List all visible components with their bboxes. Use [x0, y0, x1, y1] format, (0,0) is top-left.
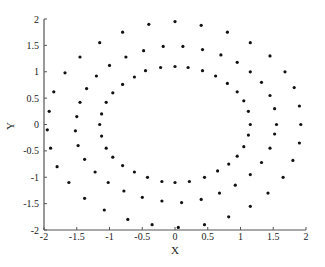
y-tick-label: 2 [34, 14, 39, 25]
data-point [188, 180, 191, 183]
data-point [203, 223, 206, 226]
data-point [293, 86, 296, 89]
x-tick-label: -0.5 [134, 231, 150, 242]
x-tick-label: 1.5 [267, 231, 280, 242]
data-point [121, 164, 124, 167]
y-tick-label: -1 [31, 172, 39, 183]
data-point [52, 90, 55, 93]
y-tick-label: -1.5 [23, 198, 39, 209]
data-point [236, 61, 239, 64]
data-point [124, 55, 127, 58]
data-point [242, 145, 245, 148]
data-point [226, 82, 229, 85]
y-tick-label: 0 [34, 119, 39, 130]
data-point [98, 41, 101, 44]
data-point [78, 101, 81, 104]
data-point [94, 170, 97, 173]
data-point [216, 169, 219, 172]
data-point [151, 223, 154, 226]
data-point [247, 134, 250, 137]
data-point [63, 71, 66, 74]
data-point [201, 48, 204, 51]
data-point [126, 218, 129, 221]
axes: -2-1.5-1-0.500.511.52-2-1.5-1-0.500.511.… [23, 14, 308, 243]
data-point [108, 64, 111, 67]
data-point [273, 132, 276, 135]
x-tick-label: -1 [105, 231, 113, 242]
data-point [142, 49, 145, 52]
data-point [75, 115, 78, 118]
x-tick-label: -2 [40, 231, 48, 242]
data-point [77, 144, 80, 147]
data-point [107, 181, 110, 184]
data-point [133, 170, 136, 173]
x-tick-label: 1 [238, 231, 243, 242]
data-point [83, 197, 86, 200]
data-point [67, 181, 70, 184]
data-point [46, 128, 49, 131]
data-point [173, 181, 176, 184]
data-point [162, 45, 165, 48]
data-point [201, 69, 204, 72]
data-point [268, 94, 271, 97]
data-point [103, 208, 106, 211]
data-point [219, 53, 222, 56]
data-point [85, 87, 88, 90]
data-point [98, 123, 101, 126]
data-point [78, 55, 81, 58]
data-point [268, 147, 271, 150]
data-point [249, 70, 252, 73]
data-point [236, 90, 239, 93]
y-tick-label: 1 [34, 66, 39, 77]
data-point [160, 180, 163, 183]
data-point [268, 54, 271, 57]
data-point [266, 192, 269, 195]
data-point [147, 23, 150, 26]
data-point [141, 196, 144, 199]
data-point [74, 129, 77, 132]
data-point [249, 205, 252, 208]
data-point [260, 161, 263, 164]
data-point [121, 31, 124, 34]
data-point [105, 101, 108, 104]
data-point [173, 20, 176, 23]
x-tick-label: -1.5 [69, 231, 85, 242]
y-tick-label: -0.5 [23, 145, 39, 156]
y-axis-label: Y [4, 122, 16, 130]
data-point [249, 173, 252, 176]
data-point [203, 176, 206, 179]
data-point [299, 123, 302, 126]
data-point [282, 176, 285, 179]
x-tick-label: 0 [173, 231, 178, 242]
y-tick-label: -2 [31, 225, 39, 236]
data-point [122, 189, 125, 192]
scatter-chart: -2-1.5-1-0.500.511.52-2-1.5-1-0.500.511.… [0, 0, 325, 267]
data-point [95, 74, 98, 77]
data-point [234, 184, 237, 187]
data-point [249, 123, 252, 126]
data-point [56, 165, 59, 168]
data-point [275, 123, 278, 126]
x-axis-label: X [171, 244, 179, 256]
data-point [173, 65, 176, 68]
x-tick-label: 0.5 [202, 231, 215, 242]
data-point [159, 66, 162, 69]
data-point [146, 176, 149, 179]
data-point [200, 24, 203, 27]
data-point [111, 91, 114, 94]
data-point [49, 147, 52, 150]
data-point [227, 163, 230, 166]
data-point [273, 107, 276, 110]
data-point [144, 69, 147, 72]
data-point [48, 110, 51, 113]
data-point [247, 110, 250, 113]
data-point [236, 155, 239, 158]
data-point [291, 159, 294, 162]
data-point [133, 75, 136, 78]
x-tick-label: 2 [304, 231, 309, 242]
data-point [227, 215, 230, 218]
data-point [100, 135, 103, 138]
data-point [160, 199, 163, 202]
data-point [298, 141, 301, 144]
data-point [111, 156, 114, 159]
